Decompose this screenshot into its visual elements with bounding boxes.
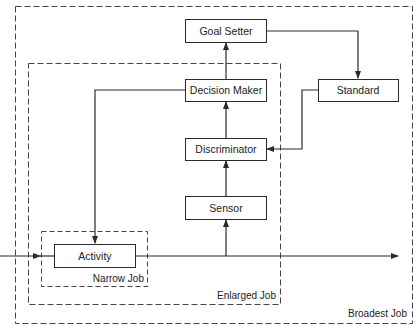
standard-box: Standard	[319, 80, 399, 102]
discriminator-box: Discriminator	[186, 139, 267, 161]
goal-setter-box: Goal Setter	[186, 20, 267, 43]
goal-setter-to-standard-arrow	[266, 31, 358, 78]
goal-setter-label: Goal Setter	[199, 25, 253, 37]
discriminator-label: Discriminator	[195, 143, 257, 155]
broadest-job-label: Broadest Job	[348, 308, 407, 319]
standard-to-discriminator-arrow	[267, 90, 318, 149]
decision-maker-box: Decision Maker	[186, 80, 267, 102]
job-scope-diagram: Broadest Job Enlarged Job Narrow Job G	[0, 0, 417, 334]
sensor-box: Sensor	[186, 197, 267, 220]
decision-maker-label: Decision Maker	[190, 84, 263, 96]
narrow-job-label: Narrow Job	[93, 273, 145, 284]
sensor-label: Sensor	[209, 202, 243, 214]
decision-maker-to-activity-arrow	[95, 90, 185, 243]
standard-label: Standard	[337, 84, 380, 96]
broadest-job-region: Broadest Job	[16, 7, 413, 324]
enlarged-job-label: Enlarged Job	[217, 290, 276, 301]
activity-box: Activity	[55, 245, 136, 268]
activity-label: Activity	[78, 250, 112, 262]
